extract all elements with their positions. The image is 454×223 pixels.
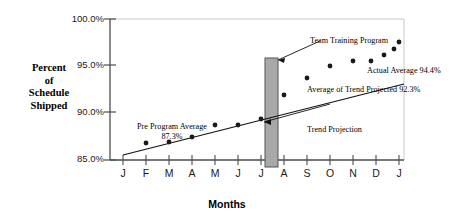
annotation-trend-projected-average: Average of Trend Projected 92.3% [307, 85, 420, 95]
annotation-trend-projection: Trend Projection [307, 125, 362, 135]
annotation-pre-program-average-label: Pre Program Average [127, 122, 217, 132]
data-point [351, 59, 356, 64]
data-point [392, 47, 397, 52]
data-point [259, 117, 264, 122]
annotation-team-training-program: Team Training Program [310, 36, 388, 46]
annotation-pre-program-average: Pre Program Average 87.3% [127, 122, 217, 141]
data-point [328, 64, 333, 69]
trend-projection-line [123, 84, 404, 155]
data-point [397, 40, 402, 45]
data-point [144, 141, 149, 146]
data-point [369, 59, 374, 64]
event-band-team-training [265, 58, 278, 167]
data-point [382, 53, 387, 58]
annotation-actual-average: Actual Average 94.4% [367, 66, 441, 76]
data-point [282, 93, 287, 98]
data-point [236, 123, 241, 128]
annotation-pre-program-average-value: 87.3% [127, 132, 217, 142]
plot-area [0, 0, 454, 223]
data-point [305, 76, 310, 81]
chart-figure: Percent of Schedule Shipped 100.0% 95.0%… [0, 0, 454, 223]
